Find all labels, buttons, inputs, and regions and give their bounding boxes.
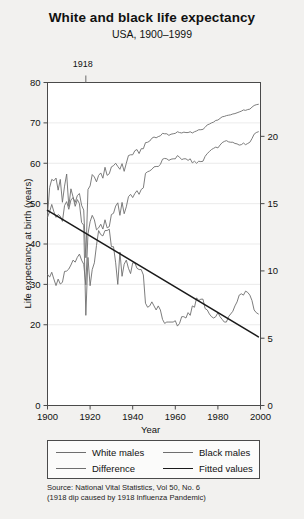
y-axis-tick-label: 0 [35, 400, 40, 411]
x-axis-tick-label: 1920 [80, 411, 101, 422]
legend-box: White males Black males Difference Fitte… [47, 440, 260, 479]
x-axis-tick-label: 1960 [165, 411, 186, 422]
legend-line-icon [163, 468, 193, 469]
y2-axis-tick-label: 5 [268, 333, 273, 344]
legend-label: Difference [92, 463, 135, 474]
legend-entry-black-males: Black males [163, 447, 250, 458]
x-axis-title: Year [141, 424, 160, 435]
y-axis-tick-label: 70 [30, 117, 41, 128]
footnote: Source: National Vital Statistics, Vol 5… [47, 483, 297, 502]
legend-line-icon [56, 468, 86, 469]
legend-entry-difference: Difference [56, 463, 135, 474]
y-axis-title: Life expectancy at birth (years) [22, 174, 33, 314]
legend-entry-fitted-values: Fitted values [163, 463, 253, 474]
y-axis-tick-label: 80 [30, 77, 41, 88]
x-axis-tick-label: 1940 [122, 411, 143, 422]
legend-label: Fitted values [199, 463, 253, 474]
y2-axis-tick-label: 10 [268, 265, 279, 276]
legend-label: Black males [199, 447, 250, 458]
footnote-line-1: Source: National Vital Statistics, Vol 5… [47, 483, 297, 493]
y-axis-tick-label: 60 [30, 158, 41, 169]
x-axis-tick-label: 1980 [207, 411, 228, 422]
y2-axis-tick-label: 0 [268, 400, 273, 411]
legend-entry-white-males: White males [56, 447, 144, 458]
x-axis-tick-label: 1900 [37, 411, 58, 422]
y-axis-tick-label: 20 [30, 319, 41, 330]
legend-line-icon [56, 452, 86, 453]
footnote-line-2: (1918 dip caused by 1918 Influenza Pande… [47, 493, 297, 503]
y2-axis-tick-label: 20 [268, 131, 279, 142]
legend-line-icon [163, 452, 193, 453]
y2-axis-tick-label: 15 [268, 198, 279, 209]
legend-label: White males [92, 447, 144, 458]
x-axis-tick-label: 2000 [250, 411, 271, 422]
figure-canvas: White and black life expectancy USA, 190… [0, 0, 304, 519]
